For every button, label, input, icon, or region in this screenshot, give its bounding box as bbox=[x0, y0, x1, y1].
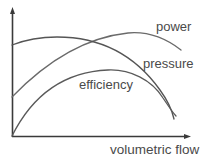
label-efficiency: efficiency bbox=[79, 78, 133, 91]
label-power: power bbox=[156, 20, 191, 33]
x-axis-label: volumetric flow bbox=[110, 143, 199, 157]
label-pressure: pressure bbox=[143, 57, 194, 70]
x-axis-arrow-icon bbox=[184, 134, 191, 139]
y-axis-arrow-icon bbox=[10, 7, 15, 14]
